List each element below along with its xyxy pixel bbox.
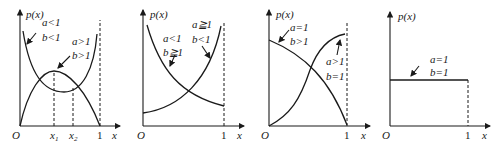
param-a-label: a=1	[430, 53, 448, 65]
one-tick-label: 1	[97, 129, 103, 141]
param-a-label: a≧1	[192, 18, 212, 30]
x2-label: x2	[68, 129, 78, 143]
panel-2: p(x) a<1 b≧1 a≧1 b<1 O 1 x	[137, 8, 244, 141]
arrow-icon	[27, 33, 36, 44]
param-b-label: b≧1	[163, 46, 183, 58]
beta-distribution-diagram: p(x) a<1 b<1 a>1 b>1 O x1 x2 1 x p(x) a<…	[0, 0, 502, 146]
x-axis-label: x	[236, 129, 242, 141]
origin-label: O	[137, 129, 145, 141]
y-axis-label: p(x)	[149, 8, 168, 21]
x-axis-label: x	[360, 129, 366, 141]
panel-1: p(x) a<1 b<1 a>1 b>1 O x1 x2 1 x	[12, 8, 120, 143]
param-a-label: a<1	[163, 32, 181, 44]
arrow-icon	[279, 30, 289, 42]
param-a-label: a=1	[290, 21, 308, 33]
one-tick-label: 1	[465, 129, 471, 141]
arrow-icon	[58, 56, 70, 68]
panel-4: p(x) a=1 b=1 O 1 x	[382, 10, 490, 141]
x1-label: x1	[49, 129, 58, 143]
one-tick-label: 1	[221, 129, 227, 141]
param-b-label: b>1	[290, 35, 308, 47]
param-b-label: b=1	[326, 70, 344, 82]
origin-label: O	[261, 129, 269, 141]
origin-label: O	[12, 129, 20, 141]
param-b-label: b>1	[72, 49, 90, 61]
param-b-label: b=1	[430, 66, 448, 78]
arrow-icon	[202, 46, 210, 58]
param-a-label: a>1	[326, 55, 344, 67]
arrow-icon	[411, 66, 419, 76]
x-axis-label: x	[111, 129, 117, 141]
origin-label: O	[382, 129, 390, 141]
panel-3: p(x) a=1 b>1 a>1 b=1 O 1 x	[261, 8, 370, 141]
param-a-label: a>1	[72, 35, 90, 47]
x-axis-label: x	[481, 129, 487, 141]
unimodal-curve	[20, 71, 100, 126]
y-axis-label: p(x)	[397, 10, 416, 23]
param-b-label: b<1	[192, 33, 210, 45]
y-axis-label: p(x)	[275, 8, 294, 21]
one-tick-label: 1	[344, 129, 350, 141]
param-a-label: a<1	[42, 16, 60, 28]
decreasing-curve	[269, 40, 347, 125]
arrow-icon	[337, 40, 340, 55]
param-b-label: b<1	[42, 31, 60, 43]
